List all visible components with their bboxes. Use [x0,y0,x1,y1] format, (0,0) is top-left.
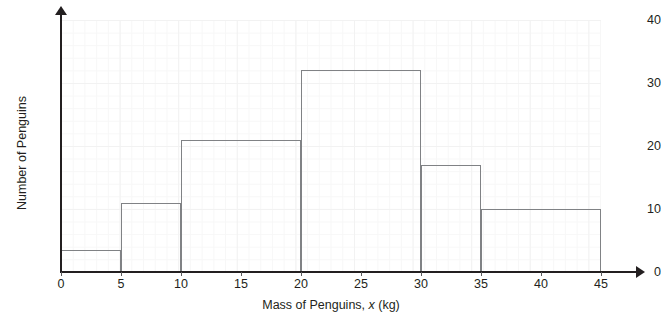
y-axis-title: Number of Penguins [15,73,29,233]
x-axis-line [60,271,638,273]
x-axis-title: Mass of Penguins, x (kg) [61,298,601,312]
x-tick-mark [481,272,482,276]
histogram-chart: 010203040 051015202530354045 Mass of Pen… [0,0,661,327]
x-tick-label: 35 [461,278,501,291]
x-tick-label: 20 [281,278,321,291]
x-tick-label: 5 [101,278,141,291]
y-tick-label: 0 [609,266,661,279]
x-tick-label: 10 [161,278,201,291]
x-variable-symbol: x [369,298,375,312]
histogram-bar [301,70,421,272]
x-tick-label: 25 [341,278,381,291]
x-tick-label: 40 [521,278,561,291]
y-tick-label: 10 [609,203,661,216]
histogram-bar [421,165,481,272]
y-axis-line [60,14,62,273]
y-tick-label: 30 [609,77,661,90]
x-tick-mark [121,272,122,276]
y-tick-label: 20 [609,140,661,153]
x-tick-label: 45 [581,278,621,291]
x-tick-label: 30 [401,278,441,291]
x-tick-mark [61,272,62,276]
x-tick-mark [241,272,242,276]
x-tick-mark [541,272,542,276]
histogram-bar [61,250,121,272]
x-tick-mark [421,272,422,276]
y-tick-label: 40 [609,14,661,27]
x-tick-mark [181,272,182,276]
y-axis-arrowhead [55,6,67,15]
x-tick-label: 0 [41,278,81,291]
histogram-bar [481,209,601,272]
histogram-bar [121,203,181,272]
histogram-bar [181,140,301,272]
x-tick-mark [301,272,302,276]
x-tick-label: 15 [221,278,261,291]
x-tick-mark [601,272,602,276]
x-tick-mark [361,272,362,276]
